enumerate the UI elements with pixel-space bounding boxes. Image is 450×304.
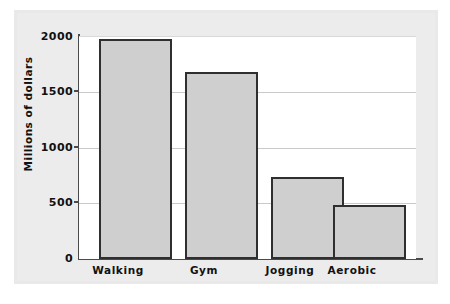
plot-area	[79, 36, 416, 259]
bar-walking[interactable]	[99, 39, 172, 259]
gridline-2000	[79, 36, 416, 37]
x-tick-label-aerobic: Aerobic	[297, 264, 407, 276]
bar-chart-figure: Millions of dollars 2000 1500 1000 500 0…	[0, 0, 450, 304]
bar-gym[interactable]	[185, 72, 258, 259]
y-tick-label-2000: 2000	[41, 31, 73, 42]
y-tick-label-0: 0	[65, 253, 73, 264]
y-tick-label-1500: 1500	[41, 86, 73, 97]
y-axis-tick-labels: 2000 1500 1000 500 0	[28, 0, 73, 304]
y-tick-label-1000: 1000	[41, 142, 73, 153]
y-tick-label-500: 500	[49, 197, 73, 208]
bar-aerobic[interactable]	[333, 205, 406, 259]
